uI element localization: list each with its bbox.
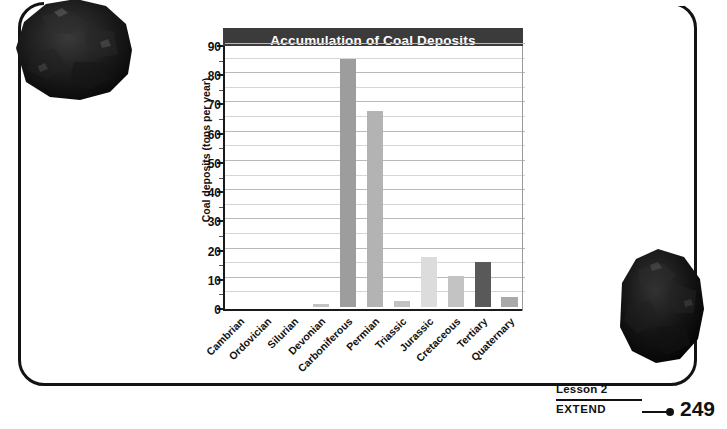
y-minor-tick-25	[219, 236, 223, 237]
bar-carboniferous[interactable]	[340, 59, 356, 307]
bar-slot-ordovician	[254, 44, 281, 307]
page-footer: Lesson 2 EXTEND 249	[556, 383, 726, 427]
bar-slot-cretaceous	[442, 44, 469, 307]
y-tick-label-0: 0	[181, 304, 221, 316]
bar-slot-tertiary	[469, 44, 496, 307]
bar-cretaceous[interactable]	[448, 276, 464, 307]
y-tick-label-50: 50	[181, 158, 221, 170]
y-minor-tick-35	[219, 207, 223, 208]
y-minor-tick-65	[219, 119, 223, 120]
bar-triassic[interactable]	[394, 301, 410, 307]
bar-permian[interactable]	[367, 111, 383, 307]
footer-bullet-dot	[666, 408, 674, 416]
lesson-label: Lesson 2	[556, 383, 607, 395]
coal-deposits-bar-chart: Accumulation of Coal Deposits Coal depos…	[183, 28, 543, 368]
y-tick-label-40: 40	[181, 187, 221, 199]
extend-label: EXTEND	[556, 403, 606, 415]
page-number: 249	[680, 397, 715, 421]
y-tick-label-70: 70	[181, 99, 221, 111]
footer-connector-line	[642, 411, 668, 413]
bar-slot-silurian	[281, 44, 308, 307]
y-minor-tick-15	[219, 265, 223, 266]
bar-series	[227, 44, 523, 307]
y-tick-label-90: 90	[181, 41, 221, 53]
bar-jurassic[interactable]	[421, 257, 437, 307]
y-tick-label-80: 80	[181, 70, 221, 82]
x-label-slot-quaternary: Quaternary	[494, 313, 521, 371]
y-tick-label-10: 10	[181, 275, 221, 287]
bar-devonian[interactable]	[313, 304, 329, 307]
coal-rock-photo-bottom-right	[600, 243, 722, 371]
coal-rock-photo-top-left	[2, 0, 152, 106]
bar-quaternary[interactable]	[501, 297, 517, 307]
bar-slot-devonian	[308, 44, 335, 307]
y-tick-label-30: 30	[181, 216, 221, 228]
bar-slot-quaternary	[496, 44, 523, 307]
y-tick-label-60: 60	[181, 129, 221, 141]
bar-slot-cambrian	[227, 44, 254, 307]
footer-rule	[556, 399, 642, 401]
bar-slot-jurassic	[415, 44, 442, 307]
y-minor-tick-75	[219, 90, 223, 91]
y-minor-tick-5	[219, 294, 223, 295]
x-axis-category-labels: CambrianOrdovicianSilurianDevonianCarbon…	[225, 313, 521, 371]
plot-wrap: 0102030405060708090	[223, 46, 523, 311]
bar-slot-triassic	[388, 44, 415, 307]
y-minor-tick-55	[219, 148, 223, 149]
y-tick-label-20: 20	[181, 246, 221, 258]
bar-tertiary[interactable]	[475, 262, 491, 307]
y-minor-tick-45	[219, 178, 223, 179]
y-minor-tick-85	[219, 61, 223, 62]
bar-slot-carboniferous	[335, 44, 362, 307]
bar-slot-permian	[362, 44, 389, 307]
plot-area	[223, 46, 523, 311]
